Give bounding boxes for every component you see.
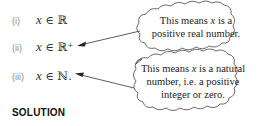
item-row-ii: (ii) x ∈ ℝ⁺	[12, 39, 73, 55]
item-label: (i)	[12, 16, 36, 26]
item-row-iii: (iii) x ∈ ℕ.	[12, 68, 72, 84]
arrowhead-2	[75, 73, 84, 78]
item-row-i: (i) x ∈ ℝ	[12, 12, 67, 28]
item-label: (ii)	[12, 43, 36, 53]
math-expression: x ∈ ℕ.	[36, 68, 72, 84]
solution-heading: SOLUTION	[12, 107, 65, 118]
callout-text-2: This means x is a natural number, i.e. a…	[136, 62, 250, 101]
arrowhead-1	[77, 42, 86, 47]
arrow-line-2	[79, 75, 134, 89]
math-expression: x ∈ ℝ⁺	[36, 39, 73, 55]
item-label: (iii)	[12, 72, 36, 82]
math-expression: x ∈ ℝ	[36, 12, 67, 28]
arrow-line-1	[80, 31, 140, 45]
callout-text-1: This means x is a positive real number.	[146, 14, 246, 40]
